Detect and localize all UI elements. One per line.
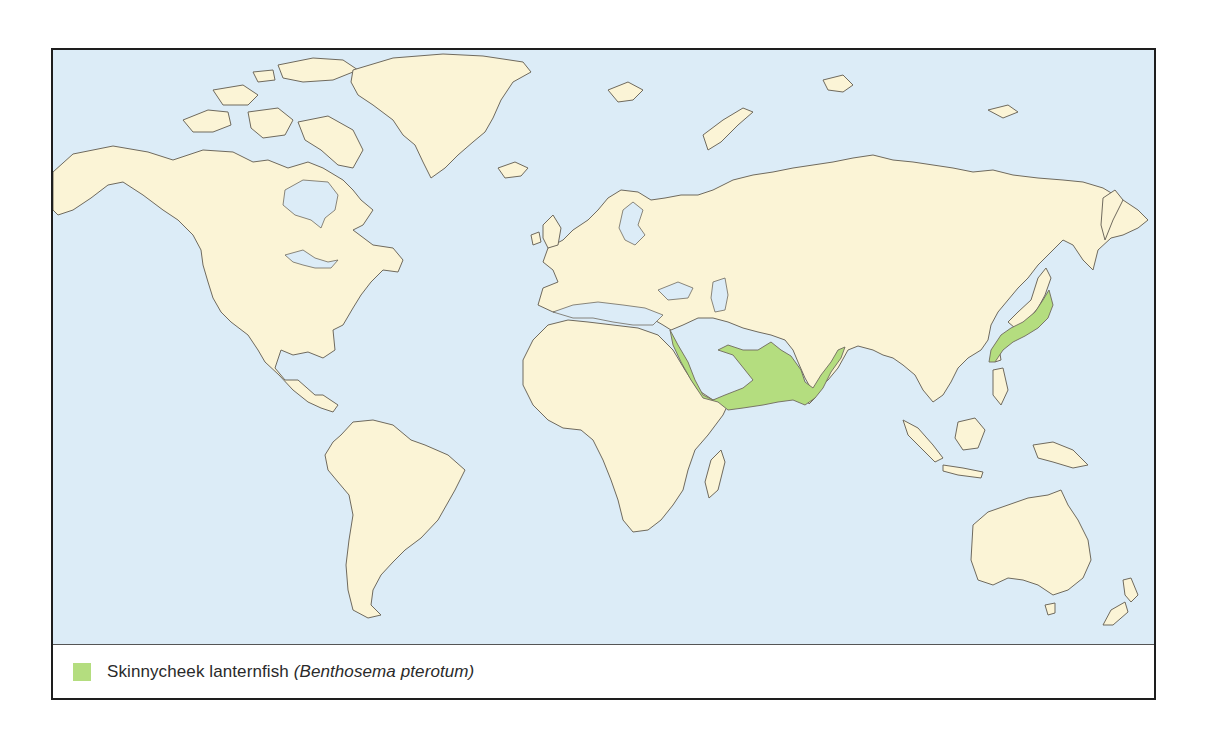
caspian-sea	[711, 278, 728, 312]
borneo	[955, 418, 985, 450]
madagascar	[705, 450, 725, 498]
map-figure-frame: Skinnycheek lanternfish (Benthosema pter…	[51, 48, 1156, 700]
north-america	[53, 146, 403, 412]
new-zealand-north	[1123, 578, 1138, 602]
arctic-archipelago	[183, 110, 231, 132]
severnaya-zemlya	[823, 75, 853, 92]
arctic-island-4	[253, 70, 275, 82]
legend-scientific-name: (Benthosema pterotum)	[294, 662, 475, 681]
new-siberian-islands	[988, 105, 1018, 118]
great-britain	[543, 215, 561, 248]
philippines	[993, 368, 1008, 405]
tasmania	[1045, 603, 1055, 615]
arctic-island-3	[248, 108, 293, 138]
world-map-svg	[53, 50, 1154, 644]
ellesmere-island	[278, 58, 358, 82]
arctic-island-2	[213, 85, 258, 105]
south-america	[325, 420, 465, 618]
legend-label: Skinnycheek lanternfish (Benthosema pter…	[107, 662, 474, 682]
africa	[523, 320, 731, 532]
baffin-island	[298, 116, 363, 168]
svalbard	[608, 82, 643, 102]
java	[943, 465, 983, 478]
greenland	[351, 54, 531, 178]
new-zealand-south	[1103, 602, 1128, 625]
legend-common-name: Skinnycheek lanternfish	[107, 662, 289, 681]
sumatra	[903, 420, 943, 462]
iceland	[498, 162, 528, 178]
australia	[971, 490, 1091, 595]
legend-swatch	[73, 663, 91, 681]
ireland	[531, 232, 541, 245]
map-legend: Skinnycheek lanternfish (Benthosema pter…	[53, 646, 1154, 698]
new-guinea	[1033, 442, 1088, 468]
novaya-zemlya	[703, 108, 753, 150]
world-map	[53, 50, 1154, 645]
